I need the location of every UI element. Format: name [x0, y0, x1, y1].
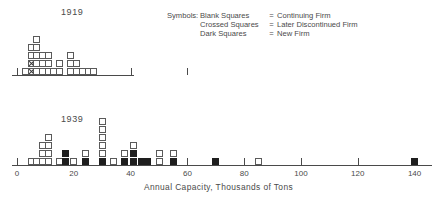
data-square-blank: [70, 158, 77, 165]
data-square-blank: [170, 150, 177, 157]
data-square-blank: [99, 134, 106, 141]
data-square-dark: [212, 158, 219, 165]
x-axis-tick: [244, 158, 245, 165]
legend-row: Crossed Squares = Later Discontinued Fir…: [167, 20, 358, 29]
x-axis-tick: [131, 68, 132, 75]
data-square-dark: [130, 150, 137, 157]
legend: Symbols: Blank Squares = Continuing Firm…: [167, 11, 358, 39]
data-square-blank: [130, 142, 137, 149]
data-square-blank: [82, 150, 89, 157]
data-square-blank: [56, 60, 63, 67]
x-axis-tick: [301, 158, 302, 165]
data-square-dark: [130, 158, 137, 165]
legend-definition-continuing: Continuing Firm: [277, 11, 331, 20]
legend-definition-discontinued: Later Discontinued Firm: [277, 20, 358, 29]
legend-equals-sign: =: [266, 20, 277, 29]
x-axis-tick-label: 0: [15, 169, 19, 178]
data-square-blank: [156, 158, 163, 165]
data-square-blank: [45, 52, 52, 59]
data-square-blank: [99, 118, 106, 125]
data-square-blank: [99, 142, 106, 149]
data-square-blank: [99, 126, 106, 133]
data-square-dark: [411, 158, 418, 165]
legend-row: Dark Squares = New Firm: [167, 29, 358, 38]
x-axis-tick: [187, 68, 188, 75]
x-axis-tick-label: 140: [408, 169, 421, 178]
x-axis-tick: [17, 68, 18, 75]
plot-1939: 020406080100120140: [0, 125, 437, 170]
legend-definition-new: New Firm: [277, 29, 309, 38]
data-square-blank: [33, 44, 40, 51]
x-axis-tick-label: 40: [126, 169, 135, 178]
data-square-dark: [82, 158, 89, 165]
data-square-blank: [45, 150, 52, 157]
x-axis-tick-label: 120: [351, 169, 364, 178]
data-square-blank: [45, 134, 52, 141]
chart-canvas: 1919 Symbols: Blank Squares = Continuing…: [0, 0, 437, 201]
data-square-blank: [73, 60, 80, 67]
legend-title: Symbols:: [167, 11, 200, 20]
plot-1919: [0, 22, 140, 80]
panel-label-1939: 1939: [61, 114, 83, 124]
legend-equals-sign: =: [266, 11, 277, 20]
data-square-blank: [33, 36, 40, 43]
data-square-blank: [255, 158, 262, 165]
legend-symbol-dark: Dark Squares: [200, 29, 266, 38]
x-axis-line-1919: [12, 75, 134, 76]
legend-symbol-blank: Blank Squares: [200, 11, 266, 20]
legend-symbol-crossed: Crossed Squares: [200, 20, 266, 29]
legend-row: Symbols: Blank Squares = Continuing Firm: [167, 11, 358, 20]
data-square-blank: [45, 158, 52, 165]
data-square-dark: [121, 158, 128, 165]
x-axis-tick: [358, 158, 359, 165]
data-square-blank: [110, 158, 117, 165]
data-square-blank: [45, 60, 52, 67]
data-square-dark: [144, 158, 151, 165]
data-square-dark: [170, 158, 177, 165]
data-square-dark: [62, 150, 69, 157]
data-square-blank: [56, 68, 63, 75]
x-axis-tick-label: 20: [69, 169, 78, 178]
x-axis-line-1939: [12, 165, 432, 166]
panel-label-1919: 1919: [61, 7, 83, 17]
data-square-blank: [99, 150, 106, 157]
x-axis-tick: [17, 158, 18, 165]
x-axis-tick: [187, 158, 188, 165]
data-square-blank: [67, 52, 74, 59]
x-axis-tick-label: 100: [294, 169, 307, 178]
data-square-blank: [121, 150, 128, 157]
x-axis-tick-label: 60: [183, 169, 192, 178]
legend-equals-sign: =: [266, 29, 277, 38]
x-axis-title: Annual Capacity, Thousands of Tons: [0, 182, 437, 192]
data-square-blank: [45, 142, 52, 149]
data-square-dark: [99, 158, 106, 165]
data-square-blank: [90, 68, 97, 75]
data-square-dark: [62, 158, 69, 165]
x-axis-tick-label: 80: [240, 169, 249, 178]
data-square-blank: [156, 150, 163, 157]
